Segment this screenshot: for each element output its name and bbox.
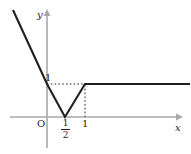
y-axis-label: y <box>37 10 43 20</box>
x-tick-label-one-half: 1 2 <box>58 119 73 140</box>
function-curve <box>13 10 190 117</box>
y-tick-label-1: 1 <box>45 73 51 83</box>
y-axis-arrow <box>44 9 51 16</box>
x-axis-arrow <box>176 114 183 121</box>
graph-figure: y x O 1 1 1 2 <box>0 0 191 154</box>
x-tick-label-1: 1 <box>82 119 88 129</box>
graph-canvas <box>0 0 191 154</box>
origin-label: O <box>37 119 45 129</box>
x-axis-label: x <box>175 123 181 133</box>
fraction-numerator: 1 <box>58 119 73 128</box>
fraction-denominator: 2 <box>58 131 73 140</box>
